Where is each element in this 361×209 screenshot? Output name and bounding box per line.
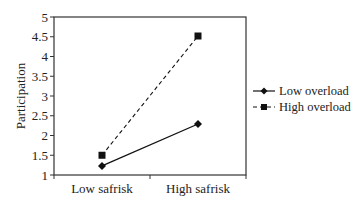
y-tick-label: 2.5 bbox=[32, 108, 48, 123]
y-tick-label: 4 bbox=[42, 49, 49, 64]
square-marker bbox=[195, 33, 202, 40]
y-tick-label: 1.5 bbox=[32, 148, 48, 163]
y-tick-label: 3 bbox=[42, 89, 49, 104]
y-tick-label: 1 bbox=[42, 168, 49, 183]
y-tick-label: 5 bbox=[42, 10, 49, 25]
legend-label: High overload bbox=[279, 100, 352, 114]
series-low-overload bbox=[98, 120, 202, 170]
plot-area bbox=[54, 17, 246, 175]
x-tick-label: Low safrisk bbox=[71, 181, 133, 196]
square-marker bbox=[99, 152, 106, 159]
legend-item-low-overload: Low overload bbox=[253, 84, 350, 98]
x-tick-label: High safrisk bbox=[166, 181, 230, 196]
legend: Low overload High overload bbox=[253, 84, 352, 114]
diamond-marker bbox=[194, 120, 202, 128]
square-icon bbox=[261, 104, 267, 110]
diamond-icon bbox=[261, 88, 268, 95]
series-high-overload bbox=[99, 33, 202, 159]
y-axis: 1 1.5 2 2.5 3 3.5 4 4.5 5 bbox=[32, 10, 54, 183]
legend-label: Low overload bbox=[279, 84, 350, 98]
line-chart: 1 1.5 2 2.5 3 3.5 4 4.5 5 Participation … bbox=[0, 0, 361, 209]
y-tick-label: 2 bbox=[42, 128, 49, 143]
y-axis-title: Participation bbox=[13, 62, 28, 129]
diamond-marker bbox=[98, 162, 106, 170]
x-axis: Low safrisk High safrisk bbox=[54, 175, 246, 196]
legend-item-high-overload: High overload bbox=[253, 100, 352, 114]
y-tick-label: 3.5 bbox=[32, 69, 48, 84]
y-tick-label: 4.5 bbox=[32, 29, 48, 44]
